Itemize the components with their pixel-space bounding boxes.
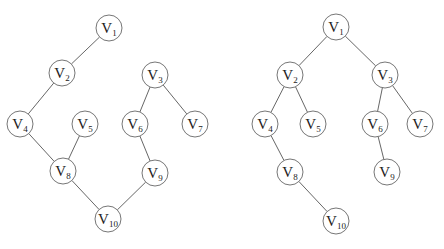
edge-v9-v10 xyxy=(117,182,145,210)
edge-v6-v9 xyxy=(378,137,384,160)
graph: V1V2V3V4V5V6V7V8V9V10 xyxy=(7,15,208,232)
graph-diagram-canvas: V1V2V3V4V5V6V7V8V9V10V1V2V3V4V5V6V7V8V9V… xyxy=(0,0,444,249)
node-v5: V5 xyxy=(72,111,98,137)
edge-v2-v5 xyxy=(296,87,308,112)
node-v8: V8 xyxy=(277,159,303,185)
edge-v3-v6 xyxy=(378,88,383,112)
node-v6: V6 xyxy=(122,111,148,137)
spanning-tree: V1V2V3V4V5V6V7V8V9V10 xyxy=(252,14,433,234)
node-v2: V2 xyxy=(49,60,75,86)
node-v3: V3 xyxy=(142,62,168,88)
edge-v1-v2 xyxy=(299,36,327,65)
edge-v3-v7 xyxy=(393,86,413,114)
node-v4: V4 xyxy=(7,111,33,137)
edge-v8-v10 xyxy=(299,181,327,211)
node-v7: V7 xyxy=(182,111,208,137)
node-v9: V9 xyxy=(374,159,400,185)
edge-v4-v8 xyxy=(29,134,54,162)
edge-v3-v6 xyxy=(140,87,150,112)
node-v1: V1 xyxy=(96,15,122,41)
edge-v5-v8 xyxy=(69,136,80,159)
node-v1: V1 xyxy=(323,14,349,40)
node-v9: V9 xyxy=(142,160,168,186)
node-v3: V3 xyxy=(372,62,398,88)
node-v10: V10 xyxy=(323,208,349,234)
edge-v1-v2 xyxy=(71,37,99,64)
edge-v8-v10 xyxy=(72,180,99,209)
node-v5: V5 xyxy=(300,111,326,137)
node-v4: V4 xyxy=(252,111,278,137)
edge-v3-v7 xyxy=(163,85,187,114)
node-v6: V6 xyxy=(362,111,388,137)
node-v2: V2 xyxy=(277,62,303,88)
node-v10: V10 xyxy=(95,206,121,232)
edge-v1-v3 xyxy=(345,36,375,66)
edge-v4-v8 xyxy=(271,136,284,161)
node-v8: V8 xyxy=(50,158,76,184)
edge-v6-v9 xyxy=(140,136,150,161)
edge-v2-v4 xyxy=(28,83,53,114)
edge-v2-v4 xyxy=(271,87,284,113)
node-v7: V7 xyxy=(407,111,433,137)
